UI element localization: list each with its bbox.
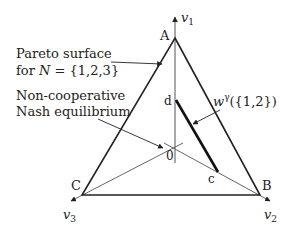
v1-label: v1: [181, 10, 194, 27]
vertex-b-label: B: [262, 178, 272, 193]
v3-label: v3: [63, 207, 76, 224]
w-pointer-arrow: [193, 110, 220, 124]
nash-pointer-arrow: [98, 119, 163, 148]
vertex-a-label: A: [159, 28, 170, 43]
vertex-c-label: C: [71, 178, 81, 193]
v2-label: v2: [264, 207, 277, 224]
nash-annotation-line1: Non-cooperative: [16, 88, 126, 103]
pareto-diagram: v1 v3 v2 A B C 0 d c Pareto surface for …: [0, 0, 290, 229]
w-annotation: wγ({1,2}): [213, 92, 277, 109]
pareto-annotation-line1: Pareto surface: [16, 46, 112, 61]
point-d-label: d: [164, 94, 172, 108]
origin-label: 0: [166, 149, 174, 163]
point-c-label: c: [208, 172, 215, 186]
pareto-annotation-line2: for N = {1,2,3}: [16, 63, 119, 78]
nash-annotation-line2: Nash equilibrium: [16, 104, 131, 119]
